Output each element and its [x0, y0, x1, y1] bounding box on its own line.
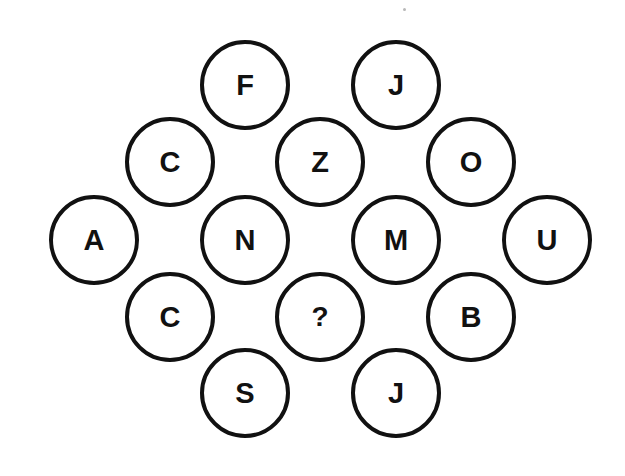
circle-letter: O: [460, 148, 483, 177]
circle-c-lower: C: [125, 272, 215, 362]
circle-f: F: [200, 40, 290, 130]
circle-letter: J: [388, 379, 404, 408]
circle-letter: B: [461, 303, 482, 332]
circle-letter: C: [160, 148, 181, 177]
circle-letter: F: [236, 71, 254, 100]
circle-s: S: [200, 348, 290, 438]
circle-n: N: [200, 195, 290, 285]
circle-letter: S: [235, 379, 254, 408]
puzzle-canvas: F J C Z O A N M U C ? B S J: [0, 0, 625, 476]
circle-letter: A: [84, 226, 105, 255]
circle-c-upper: C: [125, 117, 215, 207]
circle-b: B: [426, 272, 516, 362]
circle-m: M: [351, 195, 441, 285]
circle-u: U: [502, 195, 592, 285]
question-mark-icon: ?: [311, 303, 328, 331]
circle-j-bottom: J: [351, 348, 441, 438]
scan-speck: [403, 8, 406, 11]
circle-letter: Z: [311, 148, 329, 177]
circle-letter: M: [384, 226, 408, 255]
circle-z: Z: [275, 117, 365, 207]
circle-a: A: [49, 195, 139, 285]
circle-letter: C: [160, 303, 181, 332]
circle-letter: U: [537, 226, 558, 255]
circle-o: O: [426, 117, 516, 207]
circle-j-top: J: [351, 40, 441, 130]
circle-letter: N: [235, 226, 256, 255]
circle-letter: J: [388, 71, 404, 100]
circle-unknown: ?: [275, 272, 365, 362]
